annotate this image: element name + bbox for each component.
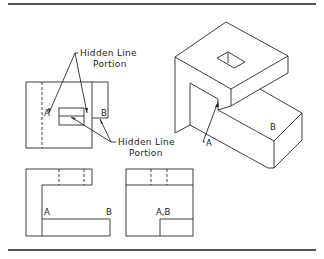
callout-top-line1: Hidden Line	[80, 48, 137, 58]
callout-bottom-line1: Hidden Line	[118, 137, 175, 147]
isometric-label-a: A	[206, 138, 212, 148]
bottom-left-label-a: A	[44, 207, 50, 217]
bottom-right-label-ab: A,B	[156, 207, 171, 217]
callout-bottom: Hidden Line Portion	[118, 137, 175, 158]
isometric-view: A B	[175, 22, 302, 168]
bottom-left-label-b: B	[106, 207, 112, 217]
bottom-right-view: A,B	[126, 169, 193, 236]
front-view-label-b: B	[101, 108, 107, 118]
technical-drawing: A B Hidden Line Portion Hidden Line Port…	[0, 0, 324, 259]
isometric-label-b: B	[270, 122, 276, 132]
bottom-left-view: A B	[26, 169, 112, 236]
callout-top-line2: Portion	[93, 59, 127, 69]
callout-bottom-line2: Portion	[129, 148, 163, 158]
callout-top: Hidden Line Portion	[80, 48, 137, 69]
